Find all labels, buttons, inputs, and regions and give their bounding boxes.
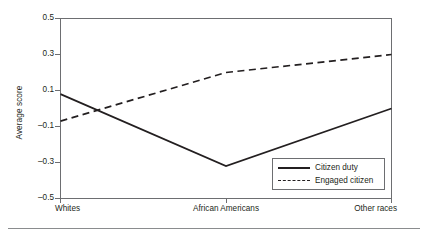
chart-figure: Average score 0.5 0.3 0.1 –0.1 –0.3 –0.5… bbox=[0, 0, 428, 238]
series-line-engaged-citizen bbox=[61, 55, 392, 122]
x-tick-label-other-races: Other races bbox=[354, 204, 397, 213]
y-tick-label: –0.5 bbox=[20, 193, 54, 202]
y-tick-labels: 0.5 0.3 0.1 –0.1 –0.3 –0.5 bbox=[18, 0, 54, 238]
line-chart-plot bbox=[0, 0, 428, 238]
legend-entry-engaged-citizen: Engaged citizen bbox=[278, 174, 373, 187]
y-tick-label: 0.1 bbox=[20, 85, 54, 94]
legend-dashed-line-icon bbox=[278, 177, 310, 184]
y-tick-label: 0.3 bbox=[20, 49, 54, 58]
y-tick-label: –0.3 bbox=[20, 157, 54, 166]
y-tick-label: 0.5 bbox=[20, 13, 54, 22]
y-tick-label: –0.1 bbox=[20, 121, 54, 130]
x-tick-label-whites: Whites bbox=[55, 204, 80, 213]
x-tick-label-african-americans: African Americans bbox=[193, 204, 259, 213]
legend-entry-citizen-duty: Citizen duty bbox=[278, 161, 358, 174]
legend-label: Engaged citizen bbox=[315, 176, 373, 185]
legend-solid-line-icon bbox=[278, 164, 310, 171]
chart-legend: Citizen duty Engaged citizen bbox=[272, 158, 385, 190]
series-line-citizen-duty bbox=[61, 94, 392, 166]
footer-divider bbox=[8, 228, 420, 229]
y-tick-marks bbox=[55, 19, 60, 199]
legend-label: Citizen duty bbox=[315, 163, 358, 172]
